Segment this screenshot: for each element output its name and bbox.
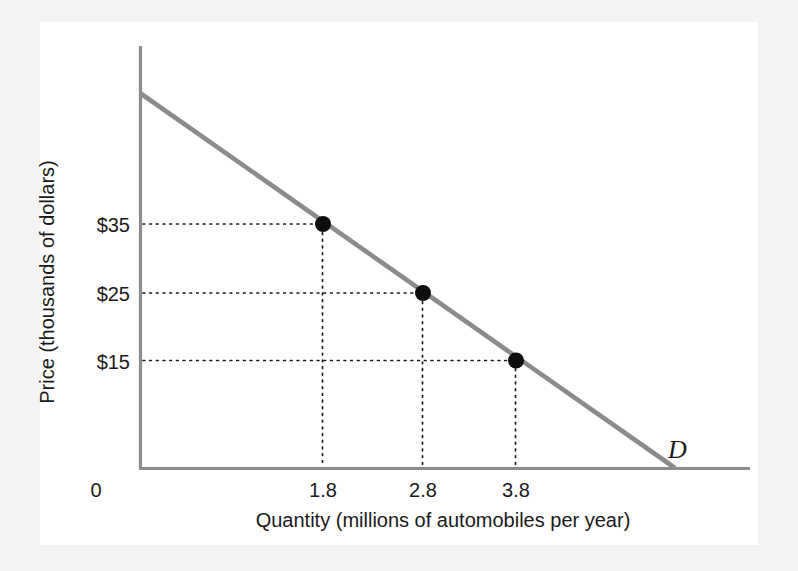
x-tick-label-2-8: 2.8 (409, 479, 437, 501)
y-tick-label-15: $15 (97, 351, 130, 373)
x-axis-title: Quantity (millions of automobiles per ye… (256, 509, 631, 531)
x-tick-labels-group: 0 1.8 2.8 3.8 (90, 479, 529, 501)
data-point-a[interactable] (315, 216, 331, 232)
data-point-c[interactable] (508, 353, 524, 369)
demand-curve-line (140, 93, 675, 468)
x-tick-label-3-8: 3.8 (502, 479, 530, 501)
axes-group (139, 46, 750, 469)
x-tick-label-1-8: 1.8 (309, 479, 337, 501)
demand-curve-plot: D $35 $25 $15 0 1.8 2.8 3.8 Quantity (mi… (0, 0, 798, 571)
x-tick-label-origin: 0 (90, 479, 101, 501)
demand-curve-group (140, 93, 675, 468)
chart-screenshot: D $35 $25 $15 0 1.8 2.8 3.8 Quantity (mi… (0, 0, 798, 571)
y-tick-label-35: $35 (97, 214, 130, 236)
y-tick-labels-group: $35 $25 $15 (97, 214, 130, 373)
y-tick-label-25: $25 (97, 283, 130, 305)
demand-curve-label: D (667, 435, 687, 464)
y-axis-title: Price (thousands of dollars) (36, 160, 58, 403)
data-point-b[interactable] (415, 285, 431, 301)
guide-lines-group (143, 224, 516, 466)
